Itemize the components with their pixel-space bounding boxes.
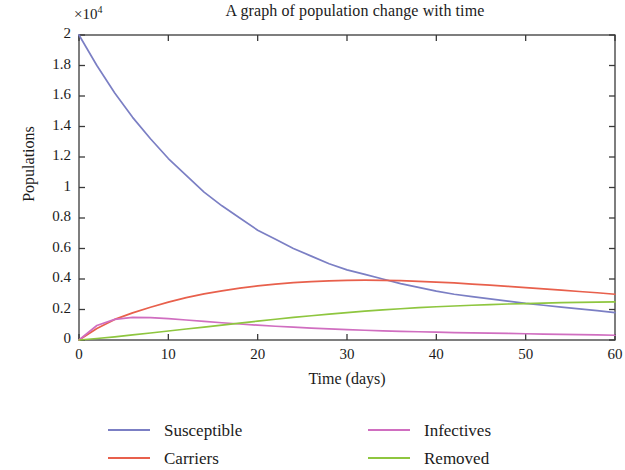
y-tick-label: 0.8: [25, 208, 71, 225]
plot-area: [0, 0, 625, 470]
y-tick-label: 1: [25, 178, 71, 195]
y-tick-label: 1.8: [25, 56, 71, 73]
x-tick-label: 60: [595, 346, 625, 363]
y-tick-label: 1.6: [25, 86, 71, 103]
figure: A graph of population change with time ×…: [0, 0, 625, 470]
legend-label: Infectives: [424, 422, 491, 439]
x-tick-label: 30: [327, 346, 367, 363]
legend-item-susceptible[interactable]: Susceptible: [108, 418, 242, 442]
legend-label: Removed: [424, 450, 489, 467]
legend-line-swatch: [108, 457, 150, 459]
legend-line-swatch: [368, 429, 410, 431]
legend-line-swatch: [108, 429, 150, 431]
curve-susceptible: [79, 35, 615, 313]
y-tick-label: 0.4: [25, 269, 71, 286]
x-tick-label: 0: [59, 346, 99, 363]
data-curves: [79, 35, 615, 340]
x-tick-label: 20: [238, 346, 278, 363]
legend-item-removed[interactable]: Removed: [368, 446, 489, 470]
curve-carriers: [79, 280, 615, 340]
y-tick-label: 1.4: [25, 117, 71, 134]
legend-item-infectives[interactable]: Infectives: [368, 418, 491, 442]
y-tick-label: 1.2: [25, 147, 71, 164]
y-tick-label: 0.6: [25, 239, 71, 256]
x-tick-label: 50: [506, 346, 546, 363]
axis-ticks: [79, 35, 615, 340]
legend-line-swatch: [368, 457, 410, 459]
x-tick-label: 40: [416, 346, 456, 363]
y-tick-label: 0.2: [25, 300, 71, 317]
x-tick-label: 10: [148, 346, 188, 363]
y-tick-label: 2: [25, 25, 71, 42]
legend-item-carriers[interactable]: Carriers: [108, 446, 219, 470]
chart-legend: SusceptibleCarriersInfectivesRemoved: [60, 418, 580, 470]
axes-frame: [79, 35, 615, 340]
legend-label: Carriers: [164, 450, 219, 467]
y-tick-label: 0: [25, 330, 71, 347]
legend-label: Susceptible: [164, 422, 242, 439]
